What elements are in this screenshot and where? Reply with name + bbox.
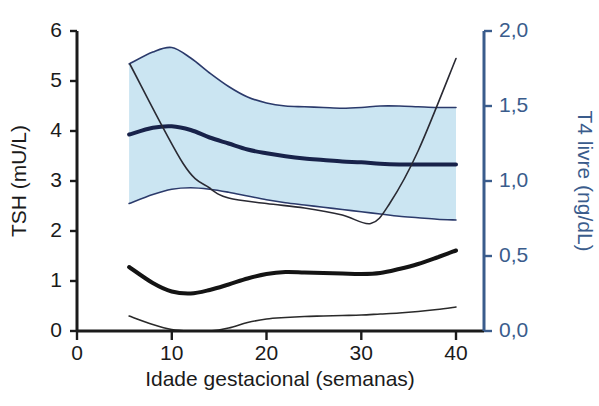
left-tick-label: 4 (50, 118, 62, 141)
series-line-3 (129, 251, 456, 294)
chart-figure: 01234560,00,51,01,52,0010203040TSH (mU/L… (0, 0, 599, 406)
chart-canvas: 01234560,00,51,01,52,0010203040TSH (mU/L… (0, 0, 599, 406)
left-tick-label: 6 (50, 18, 62, 41)
right-tick-label: 0,5 (499, 243, 528, 266)
right-tick-label: 2,0 (499, 18, 528, 41)
reference-band-fill (129, 47, 456, 220)
bottom-tick-label: 20 (255, 341, 278, 364)
right-tick-label: 1,5 (499, 93, 528, 116)
left-tick-label: 5 (50, 68, 62, 91)
bottom-tick-label: 0 (71, 341, 83, 364)
bottom-tick-label: 30 (350, 341, 373, 364)
left-tick-label: 1 (50, 268, 62, 291)
right-tick-label: 0,0 (499, 318, 528, 341)
left-axis-title: TSH (mU/L) (7, 125, 30, 237)
reference-band (129, 47, 456, 220)
bottom-tick-label: 40 (444, 341, 467, 364)
left-tick-label: 0 (50, 318, 62, 341)
bottom-axis-title: Idade gestacional (semanas) (145, 367, 415, 390)
right-tick-label: 1,0 (499, 168, 528, 191)
series-line-4 (129, 307, 456, 331)
right-axis-title: T4 livre (ng/dL) (574, 110, 597, 251)
left-tick-label: 3 (50, 168, 62, 191)
left-tick-label: 2 (50, 218, 62, 241)
bottom-tick-label: 10 (160, 341, 183, 364)
